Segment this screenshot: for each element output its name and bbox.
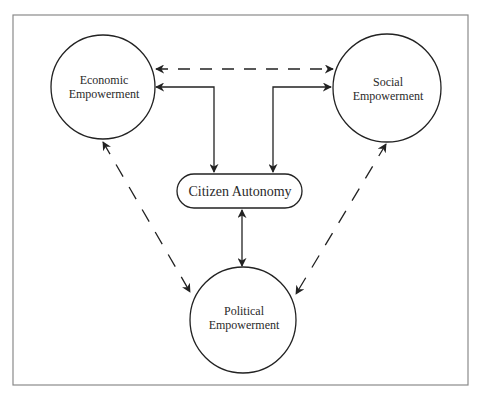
edge-social-citizen <box>273 87 331 172</box>
edge-economic-citizen <box>156 87 214 172</box>
edge-economic-political-dashed <box>103 142 190 292</box>
node-economic-empowerment: Economic Empowerment <box>51 35 155 139</box>
diagram-canvas: Economic Empowerment Social Empowerment … <box>0 0 482 399</box>
citizen-autonomy-label: Citizen Autonomy <box>188 184 291 199</box>
social-label-line1: Social <box>373 75 404 89</box>
edge-social-political-dashed <box>296 144 386 294</box>
node-citizen-autonomy: Citizen Autonomy <box>177 174 302 208</box>
social-label-line2: Empowerment <box>353 89 424 103</box>
economic-label-line2: Empowerment <box>69 87 140 101</box>
node-political-empowerment: Political Empowerment <box>190 267 296 373</box>
node-social-empowerment: Social Empowerment <box>333 34 441 142</box>
political-label-line1: Political <box>224 304 265 318</box>
political-label-line2: Empowerment <box>209 318 280 332</box>
economic-label-line1: Economic <box>80 73 129 87</box>
